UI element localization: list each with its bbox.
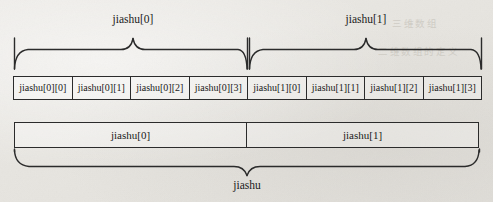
- bleed-through-text: 三维数组: [392, 16, 438, 30]
- array-cell: jiashu[0][2]: [130, 76, 190, 100]
- group-cell: jiashu[0]: [15, 123, 246, 147]
- paper-grain: [0, 0, 493, 202]
- element-cell-row: jiashu[0][0] jiashu[0][1] jiashu[0][2] j…: [13, 76, 482, 100]
- array-cell: jiashu[0][1]: [72, 76, 132, 100]
- array-cell: jiashu[0][3]: [189, 76, 249, 100]
- array-cell: jiashu[1][1]: [306, 76, 366, 100]
- top-brace-jiashu0: [15, 38, 248, 69]
- bottom-brace-jiashu: [15, 149, 480, 176]
- array-cell: jiashu[1][0]: [247, 76, 307, 100]
- bleed-through-text: 二维数组的定义: [378, 44, 459, 58]
- bottom-brace-label-jiashu: jiashu: [233, 180, 260, 192]
- array-structure-diagram: 三维数组 二维数组的定义 ji: [0, 0, 493, 202]
- group-cell: jiashu[1]: [246, 123, 478, 147]
- group-row: jiashu[0] jiashu[1]: [14, 122, 479, 148]
- brace-strokes: [0, 0, 493, 202]
- top-brace-jiashu1: [250, 38, 482, 69]
- top-brace-label-jiashu0: jiashu[0]: [113, 14, 154, 26]
- top-brace-label-jiashu1: jiashu[1]: [346, 14, 387, 26]
- array-cell: jiashu[1][3]: [423, 76, 483, 100]
- array-cell: jiashu[1][2]: [364, 76, 424, 100]
- array-cell: jiashu[0][0]: [13, 76, 73, 100]
